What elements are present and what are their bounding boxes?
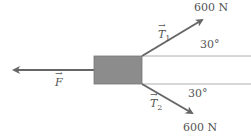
block [94,56,142,84]
f-vector-label: →F [55,76,63,89]
t2-angle-label: 30° [188,87,208,100]
t2-vector-label: →T2 [150,97,162,112]
t1-vector-label: →T1 [158,28,170,43]
t1-subscript: 1 [165,34,170,43]
t1-magnitude-label: 600 N [194,1,228,14]
t1-angle-label: 30° [200,38,220,51]
force-t1-arrow [142,20,202,56]
t2-subscript: 2 [157,103,162,112]
t2-magnitude-label: 600 N [183,121,217,134]
force-diagram [0,0,251,136]
